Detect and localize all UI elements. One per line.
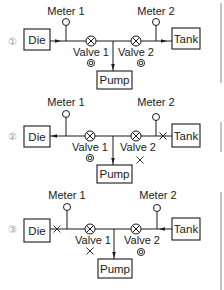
pump-label: Pump: [99, 74, 129, 86]
tank-label: Tank: [174, 33, 199, 45]
open-state-icon: [86, 154, 93, 161]
die-label: Die: [28, 225, 45, 237]
tank-label: Tank: [174, 223, 199, 235]
flow-arrow-icon: [111, 158, 115, 164]
meter1-label: Meter 1: [47, 96, 84, 108]
open-state-icon: [87, 59, 94, 66]
meter2-gauge-icon: [154, 205, 161, 212]
meter2-gauge-icon: [153, 19, 160, 26]
valve2-label: Valve 2: [124, 234, 160, 246]
meter2-label: Meter 2: [137, 5, 174, 17]
meter1-gauge-icon: [63, 19, 70, 26]
meter1-label: Meter 1: [48, 189, 85, 201]
meter2-gauge-icon: [153, 114, 160, 121]
closed-state-icon: [87, 248, 94, 255]
flow-arrow-icon: [159, 227, 165, 231]
flow-arrow-icon: [161, 39, 167, 43]
valve1-label: Valve 1: [72, 141, 108, 153]
pump-label: Pump: [100, 263, 130, 275]
valve2-label: Valve 2: [120, 141, 156, 153]
flow-arrow-icon: [111, 64, 115, 70]
pump-label: Pump: [99, 168, 129, 180]
tank-label: Tank: [174, 130, 199, 142]
diagram-index: ③: [8, 224, 17, 235]
valve1-label: Valve 1: [75, 234, 111, 246]
diagram-1: ① Die Tank Meter 1 Meter 2 Valve 1 Valve…: [8, 5, 200, 89]
diagram-2: ② Die Tank Meter 1 Meter 2 Valve 1 Valve…: [8, 96, 200, 183]
valve-diagrams: ① Die Tank Meter 1 Meter 2 Valve 1 Valve…: [0, 0, 224, 290]
diagram-index: ②: [8, 131, 17, 142]
diagram-3: ③ Die Tank Meter 1 Meter 2 Valve 1 Valve…: [8, 189, 200, 278]
diagram-index: ①: [8, 36, 17, 47]
flow-arrow-icon: [112, 252, 116, 258]
meter1-gauge-icon: [63, 111, 70, 118]
closed-state-icon: [137, 157, 144, 164]
meter2-label: Meter 2: [137, 96, 174, 108]
valve1-label: Valve 1: [73, 46, 109, 58]
open-state-icon: [137, 248, 144, 255]
meter1-gauge-icon: [64, 204, 71, 211]
valve2-label: Valve 2: [118, 46, 154, 58]
flow-arrow-icon: [55, 39, 61, 43]
meter2-label: Meter 2: [139, 189, 176, 201]
open-state-icon: [137, 59, 144, 66]
meter1-label: Meter 1: [47, 5, 84, 17]
die-label: Die: [28, 131, 45, 143]
die-label: Die: [28, 34, 45, 46]
flow-arrow-icon: [51, 134, 57, 138]
